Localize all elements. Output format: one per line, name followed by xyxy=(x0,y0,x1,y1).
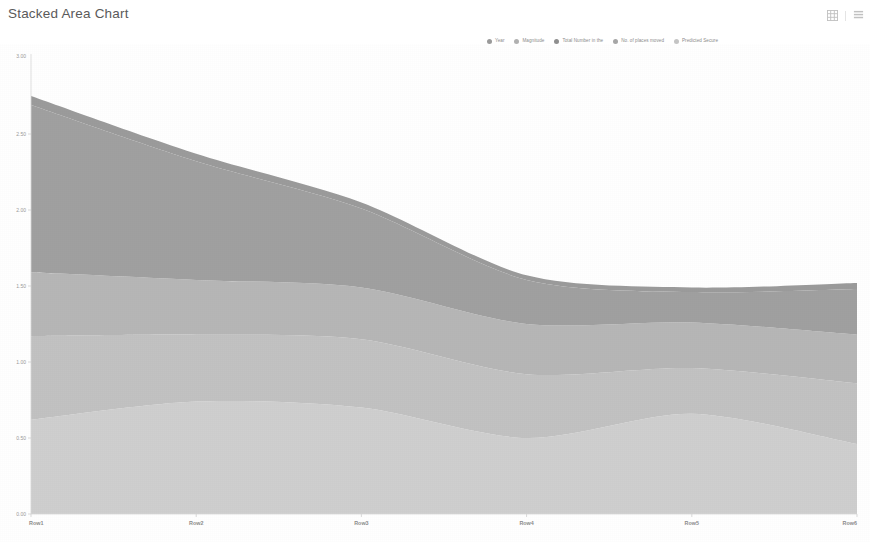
x-tick-label: Row2 xyxy=(189,520,203,526)
x-axis-ticks: Row1Row2Row3Row4Row5Row6 xyxy=(29,514,857,526)
y-tick-label: 0.00 xyxy=(16,511,26,517)
grid-view-icon[interactable] xyxy=(827,10,838,21)
chart-plot-area: 0.000.501.001.502.002.503.00Row1Row2Row3… xyxy=(0,44,870,542)
y-tick-label: 1.50 xyxy=(16,283,26,289)
y-tick-label: 2.00 xyxy=(16,207,26,213)
y-tick-label: 1.00 xyxy=(16,359,26,365)
stacked-area-plot[interactable]: 0.000.501.001.502.002.503.00Row1Row2Row3… xyxy=(0,44,870,542)
x-tick-label: Row1 xyxy=(29,520,43,526)
x-tick-label: Row5 xyxy=(685,520,699,526)
chart-page: Stacked Area Chart YearMagnitudeTotal Nu… xyxy=(0,0,870,542)
y-axis-max-label: 3.00 xyxy=(16,53,26,59)
page-title: Stacked Area Chart xyxy=(8,6,129,21)
toolbar-divider xyxy=(845,11,846,21)
more-menu-icon[interactable] xyxy=(853,10,864,21)
y-tick-label: 0.50 xyxy=(16,435,26,441)
x-tick-label: Row4 xyxy=(519,520,533,526)
x-tick-label: Row3 xyxy=(354,520,368,526)
area-bands-group xyxy=(31,96,857,514)
x-tick-label: Row6 xyxy=(843,520,857,526)
y-axis-ticks: 0.000.501.001.502.002.503.00 xyxy=(16,53,31,517)
y-tick-label: 2.50 xyxy=(16,131,26,137)
chart-toolbar xyxy=(827,10,864,21)
